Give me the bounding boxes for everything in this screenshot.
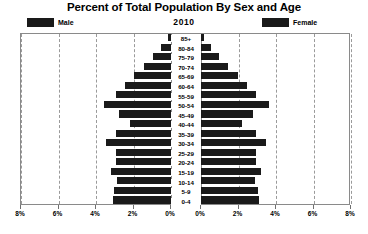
female-half xyxy=(201,168,351,178)
age-group-label: 15-19 xyxy=(171,169,201,176)
male-half xyxy=(21,120,171,130)
axis-tick-label: 4% xyxy=(90,210,99,218)
pyramid-row: 70-74 xyxy=(21,63,349,73)
female-half xyxy=(201,149,351,159)
bar-male xyxy=(130,120,171,127)
bar-male xyxy=(113,196,171,203)
age-group-label: 45-49 xyxy=(171,112,201,119)
age-group-label: 30-34 xyxy=(171,140,201,147)
male-half xyxy=(21,149,171,159)
age-group-label: 20-24 xyxy=(171,159,201,166)
pyramid-row: 55-59 xyxy=(21,91,349,101)
bar-male xyxy=(144,63,171,70)
male-half xyxy=(21,158,171,168)
bar-female xyxy=(201,139,266,146)
bar-female xyxy=(201,130,256,137)
axis-tick xyxy=(170,205,171,209)
axis-tick xyxy=(133,205,134,209)
male-half xyxy=(21,110,171,120)
male-half xyxy=(21,63,171,73)
male-half xyxy=(21,168,171,178)
bar-female xyxy=(201,91,256,98)
age-group-label: 55-59 xyxy=(171,93,201,100)
bar-male xyxy=(106,139,171,146)
bar-female xyxy=(201,168,261,175)
pyramid-row: 5-9 xyxy=(21,187,349,197)
age-group-label: 35-39 xyxy=(171,131,201,138)
year-label: 2010 xyxy=(0,17,368,27)
female-half xyxy=(201,130,351,140)
bar-female xyxy=(201,196,259,203)
plot-area: 85+80-8475-7970-7465-6960-6455-5950-5445… xyxy=(20,33,350,205)
age-group-label: 40-44 xyxy=(171,121,201,128)
axis-tick xyxy=(313,205,314,209)
bar-male xyxy=(116,91,171,98)
pyramid-row: 10-14 xyxy=(21,177,349,187)
bar-female xyxy=(201,177,255,184)
age-group-label: 0-4 xyxy=(171,198,201,205)
bar-female xyxy=(201,158,256,165)
age-group-label: 10-14 xyxy=(171,179,201,186)
male-half xyxy=(21,53,171,63)
axis-tick xyxy=(20,205,21,209)
population-pyramid-chart: Percent of Total Population By Sex and A… xyxy=(0,0,368,234)
axis-tick xyxy=(200,205,201,209)
axis-tick xyxy=(58,205,59,209)
pyramid-row: 45-49 xyxy=(21,110,349,120)
male-half xyxy=(21,130,171,140)
bar-male xyxy=(119,110,171,117)
female-half xyxy=(201,82,351,92)
pyramid-row: 60-64 xyxy=(21,82,349,92)
bar-male xyxy=(134,72,171,79)
axis-tick-label: 2% xyxy=(128,210,137,218)
female-half xyxy=(201,44,351,54)
age-group-label: 75-79 xyxy=(171,54,201,61)
axis-tick xyxy=(95,205,96,209)
bar-male xyxy=(161,44,171,51)
male-half xyxy=(21,34,171,44)
age-group-label: 80-84 xyxy=(171,45,201,52)
male-half xyxy=(21,44,171,54)
axis-tick-label: 6% xyxy=(53,210,62,218)
bar-male xyxy=(111,168,171,175)
female-half xyxy=(201,187,351,197)
pyramid-row: 80-84 xyxy=(21,44,349,54)
bar-male xyxy=(116,149,171,156)
pyramid-row: 15-19 xyxy=(21,168,349,178)
age-group-label: 5-9 xyxy=(171,188,201,195)
bar-female xyxy=(201,82,247,89)
age-group-label: 70-74 xyxy=(171,64,201,71)
female-half xyxy=(201,158,351,168)
age-group-label: 65-69 xyxy=(171,73,201,80)
pyramid-row: 40-44 xyxy=(21,120,349,130)
axis-tick-label: 8% xyxy=(15,210,24,218)
pyramid-row: 30-34 xyxy=(21,139,349,149)
axis-tick-label: 6% xyxy=(308,210,317,218)
female-half xyxy=(201,91,351,101)
bar-male xyxy=(125,82,171,89)
female-half xyxy=(201,139,351,149)
bar-female xyxy=(201,44,211,51)
male-half xyxy=(21,101,171,111)
pyramid-row: 50-54 xyxy=(21,101,349,111)
bar-female xyxy=(201,63,228,70)
bar-female xyxy=(201,120,242,127)
bar-male xyxy=(116,130,171,137)
pyramid-row: 35-39 xyxy=(21,130,349,140)
female-half xyxy=(201,101,351,111)
age-group-label: 85+ xyxy=(171,35,201,42)
bar-female xyxy=(201,187,258,194)
female-half xyxy=(201,63,351,73)
bar-female xyxy=(201,72,238,79)
bar-male xyxy=(104,101,172,108)
female-half xyxy=(201,53,351,63)
axis-tick-label: 4% xyxy=(270,210,279,218)
bar-male xyxy=(153,53,171,60)
bar-female xyxy=(201,53,219,60)
age-group-label: 25-29 xyxy=(171,150,201,157)
female-half xyxy=(201,110,351,120)
age-group-label: 50-54 xyxy=(171,102,201,109)
bar-male xyxy=(116,158,171,165)
bar-female xyxy=(201,149,256,156)
male-half xyxy=(21,187,171,197)
